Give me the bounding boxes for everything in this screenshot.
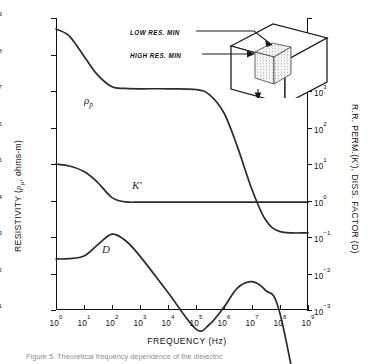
y-tick-label-left: 108 xyxy=(0,50,2,62)
x-tick xyxy=(308,305,309,310)
y-tick-label-left: 105 xyxy=(0,159,2,171)
y-tick-label-left: 106 xyxy=(0,123,2,135)
figure-caption: Figure 5. Theoretical frequency dependen… xyxy=(26,352,374,361)
curve-label-k-prime: K' xyxy=(132,179,142,191)
x-tick-label: 103 xyxy=(134,316,147,328)
y-tick-label-left: 104 xyxy=(0,196,2,208)
y-tick-right xyxy=(307,310,312,311)
curve-label-rho-p: ρp xyxy=(84,94,93,109)
y-axis-right-title: R.R. PERM.(K'), DISS. FACTOR (D) xyxy=(350,104,360,254)
y-tick-label-left: 102 xyxy=(0,269,2,281)
x-tick-label: 108 xyxy=(274,316,287,328)
y-tick-label-right: 102 xyxy=(314,123,327,135)
x-tick-label: 105 xyxy=(190,316,203,328)
inset-diagram: LOW RES. MIN HIGH RES. MIN xyxy=(128,12,336,98)
y-tick-label-right: 10−1 xyxy=(314,232,330,244)
x-tick-label: 107 xyxy=(246,316,259,328)
inset-cube-svg xyxy=(128,12,336,98)
figure-root: ρp K' D 10110210310410510610710810910−31… xyxy=(0,0,374,364)
x-tick-label: 109 xyxy=(302,316,315,328)
y-tick-label-right: 10−2 xyxy=(314,269,330,281)
y-tick-label-left: 107 xyxy=(0,86,2,98)
curve-k-prime xyxy=(56,164,308,202)
x-tick-label: 102 xyxy=(106,316,119,328)
leader-high-res-min xyxy=(202,50,255,57)
x-tick-label: 100 xyxy=(50,316,63,328)
y-tick-label-left: 101 xyxy=(0,305,2,317)
x-tick-label: 106 xyxy=(218,316,231,328)
y-tick-label-right: 101 xyxy=(314,159,327,171)
y-tick-label-right: 10−3 xyxy=(314,305,330,317)
y-axis-left-title: RESISTIVITY (ρp, ohms-m) xyxy=(13,140,25,252)
x-tick-label: 101 xyxy=(78,316,91,328)
curve-label-d: D xyxy=(102,243,110,255)
x-tick-label: 104 xyxy=(162,316,175,328)
y-tick-left xyxy=(51,310,56,311)
x-axis-title: FREQUENCY (Hz) xyxy=(0,336,374,346)
y-tick-label-left: 103 xyxy=(0,232,2,244)
y-tick-label-right: 100 xyxy=(314,196,327,208)
y-tick-label-left: 109 xyxy=(0,13,2,25)
